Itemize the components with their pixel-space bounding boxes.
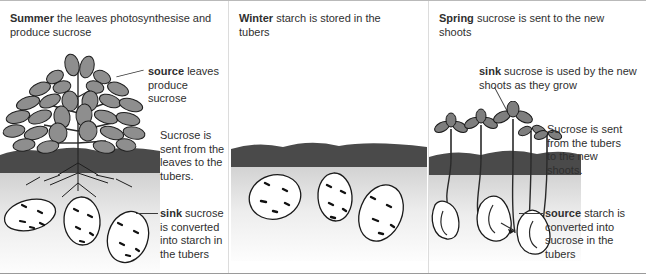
summer-illustration: [0, 51, 160, 273]
diagram-canvas: Summer the leaves photosynthesise and pr…: [0, 0, 646, 274]
panel-summer: Summer the leaves photosynthesise and pr…: [0, 1, 228, 273]
annotation-transport-summer: Sucrose is sent from the leaves to the t…: [160, 129, 230, 183]
winter-illustration: [231, 141, 427, 261]
panel-winter: Winter starch is stored in the tubers: [228, 1, 429, 273]
annotation-transport-spring: Sucrose is sent from the tubers to the n…: [547, 123, 633, 177]
season-label-spring: Spring: [439, 12, 474, 24]
panel-spring-heading: Spring sucrose is sent to the new shoots: [439, 12, 639, 39]
annotation-source-tubers: source starch is converted into sucrose …: [545, 207, 635, 261]
season-label-winter: Winter: [239, 12, 273, 24]
winter-tubers-svg: [231, 141, 427, 261]
annotation-sink-shoots-text: sucrose is used by the new shoots as the…: [479, 65, 637, 91]
annotation-transport-summer-text: Sucrose is sent from the leaves to the t…: [160, 129, 224, 182]
leader-line-source-tubers: [519, 213, 543, 214]
annotation-source-leaves: source leaves produce sucrose: [148, 65, 226, 106]
panel-summer-heading: Summer the leaves photosynthesise and pr…: [10, 12, 215, 39]
annotation-sink-shoots-term: sink: [479, 65, 501, 77]
summer-plant-svg: [0, 51, 160, 273]
leader-line-sink-tubers: [136, 213, 158, 214]
annotation-source-tubers-term: source: [545, 207, 581, 219]
annotation-sink-tubers-term: sink: [160, 207, 182, 219]
panel-winter-heading: Winter starch is stored in the tubers: [239, 12, 409, 39]
panel-spring: Spring sucrose is sent to the new shoots…: [428, 1, 646, 273]
annotation-source-leaves-term: source: [148, 65, 184, 77]
annotation-transport-spring-text: Sucrose is sent from the tubers to the n…: [547, 123, 622, 176]
annotation-sink-tubers: sink sucrose is converted into starch in…: [160, 207, 230, 261]
annotation-sink-shoots: sink sucrose is used by the new shoots a…: [479, 65, 639, 92]
season-label-summer: Summer: [10, 12, 54, 24]
